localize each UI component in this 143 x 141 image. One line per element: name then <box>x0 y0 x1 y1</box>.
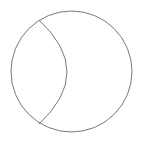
outer-circle <box>11 11 132 132</box>
circle-arc-diagram <box>0 0 143 141</box>
inner-arc <box>39 20 67 124</box>
diagram-canvas <box>0 0 143 141</box>
